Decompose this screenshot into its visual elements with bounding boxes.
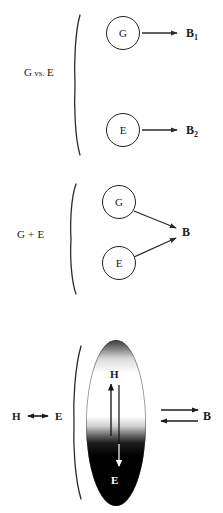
term-behavior-2-sub: 2 — [194, 130, 198, 139]
term-behavior-continuum: B — [203, 409, 211, 424]
panel-g-plus-e: G + E G E B — [0, 168, 223, 303]
term-behavior-1: B1 — [186, 26, 198, 42]
left-brace-continuum — [70, 345, 86, 500]
ellipse-label-environment: E — [111, 474, 118, 486]
term-behavior-1-base: B — [186, 26, 194, 40]
term-behavior-continuum-base: B — [203, 409, 211, 423]
arrow-g-to-b — [134, 211, 176, 228]
label-environment-left: E — [55, 410, 62, 422]
panel-h-interacts-e: H E — [0, 300, 223, 513]
term-behavior-2-base: B — [186, 123, 194, 137]
term-behavior-1-sub: 1 — [194, 33, 198, 42]
ellipse-label-heredity: H — [110, 368, 119, 380]
panel-g-vs-e: Gvs.E G E B1 B2 — [0, 0, 223, 170]
term-behavior-combined-base: B — [182, 225, 190, 239]
arrow-e-to-b — [134, 238, 176, 257]
gradient-continuum-ellipse: H E — [86, 340, 146, 506]
figure-root: Gvs.E G E B1 B2 G + E — [0, 0, 223, 513]
term-behavior-2: B2 — [186, 123, 198, 139]
term-behavior-combined: B — [182, 225, 190, 240]
